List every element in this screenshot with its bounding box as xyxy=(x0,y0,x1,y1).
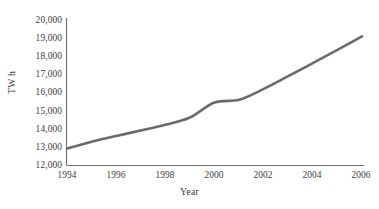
data-series-line xyxy=(67,36,362,148)
x-tick-1994: 1994 xyxy=(45,169,89,181)
x-tick-label: 1998 xyxy=(143,169,187,181)
x-tick-label: 1994 xyxy=(45,169,89,181)
line-chart-figure: 20,000 19,000 18,000 17,000 16,000 15,00… xyxy=(0,0,379,209)
x-tick-label: 2002 xyxy=(241,169,285,181)
x-axis-title: Year xyxy=(0,186,379,197)
x-tick-2002: 2002 xyxy=(241,169,285,181)
x-tick-label: 2004 xyxy=(290,169,334,181)
x-tick-label: 2000 xyxy=(192,169,236,181)
x-tick-2004: 2004 xyxy=(290,169,334,181)
x-tick-label: 2006 xyxy=(339,169,379,181)
x-tick-2000: 2000 xyxy=(192,169,236,181)
x-tick-2006: 2006 xyxy=(339,169,379,181)
x-tick-label: 1996 xyxy=(94,169,138,181)
x-tick-1996: 1996 xyxy=(94,169,138,181)
x-tick-1998: 1998 xyxy=(143,169,187,181)
